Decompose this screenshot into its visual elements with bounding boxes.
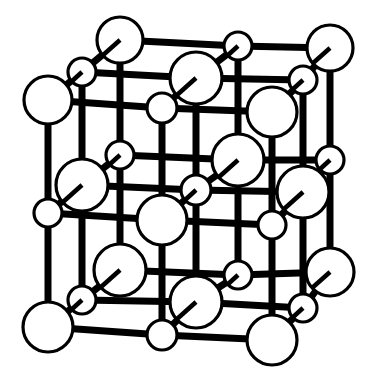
lattice-atom-large <box>97 17 143 63</box>
lattice-atom-large <box>94 244 146 296</box>
lattice-atom-small <box>68 286 96 314</box>
atom-sphere <box>258 211 286 239</box>
atom-sphere <box>34 199 62 227</box>
lattice-atom-large <box>247 315 297 365</box>
lattice-atom-small <box>258 211 286 239</box>
atom-sphere <box>24 76 72 124</box>
lattice-atom-large <box>306 248 354 296</box>
lattice-atom-large <box>23 302 73 352</box>
atom-sphere <box>247 315 297 365</box>
crystal-lattice-figure <box>0 0 377 392</box>
lattice-atom-small <box>147 320 177 350</box>
lattice-atom-small <box>34 199 62 227</box>
lattice-atom-large <box>24 76 72 124</box>
lattice-atom-large <box>277 166 329 218</box>
lattice-atom-large <box>170 276 222 328</box>
lattice-atom-large <box>170 52 222 104</box>
atom-sphere <box>137 195 187 245</box>
lattice-atom-large <box>307 25 353 71</box>
lattice-atom-small <box>147 93 177 123</box>
crystal-lattice-svg <box>0 0 377 392</box>
lattice-atom-small <box>181 175 211 205</box>
lattice-atom-small <box>224 32 252 60</box>
atom-sphere <box>23 302 73 352</box>
lattice-atom-small <box>316 146 344 174</box>
lattice-atom-large <box>56 159 108 211</box>
lattice-atom-large <box>247 87 297 137</box>
atom-sphere <box>147 93 177 123</box>
lattice-atom-small <box>106 141 134 169</box>
lattice-atom-large <box>212 134 264 186</box>
lattice-atom-small <box>289 66 317 94</box>
lattice-atom-small <box>68 58 96 86</box>
lattice-atom-small <box>289 294 317 322</box>
atom-sphere <box>147 320 177 350</box>
lattice-atom-large <box>137 195 187 245</box>
lattice-atom-small <box>224 261 252 289</box>
atom-sphere <box>247 87 297 137</box>
